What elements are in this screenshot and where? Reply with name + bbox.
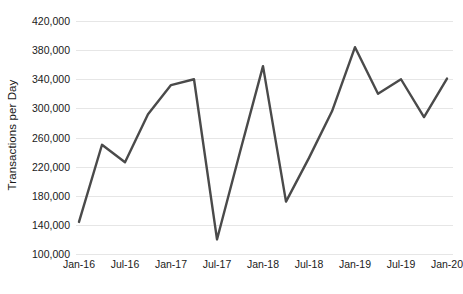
y-axis-tick-label: 300,000 <box>32 102 70 114</box>
y-axis-tick-label: 220,000 <box>32 161 70 173</box>
x-axis-tick-label: Jan-19 <box>339 258 371 270</box>
x-axis-tick-label: Jan-20 <box>431 258 463 270</box>
x-axis-tick-labels: Jan-16Jul-16Jan-17Jul-17Jan-18Jul-18Jan-… <box>0 258 457 278</box>
y-axis-tick-label: 420,000 <box>32 15 70 27</box>
y-axis-tick-label: 180,000 <box>32 190 70 202</box>
x-axis-tick-label: Jul-16 <box>111 258 140 270</box>
y-axis-title-label: Transactions per Day <box>6 80 18 191</box>
plot-area <box>76 21 453 254</box>
x-axis-tick-label: Jan-17 <box>155 258 187 270</box>
x-axis-tick-label: Jan-16 <box>63 258 95 270</box>
series-line-transactions-per-day <box>76 21 453 254</box>
x-axis-tick-label: Jul-17 <box>203 258 232 270</box>
y-axis-tick-labels: 420,000380,000340,000300,000260,000220,0… <box>24 0 74 294</box>
y-axis-tick-label: 340,000 <box>32 73 70 85</box>
x-axis-tick-label: Jul-19 <box>387 258 416 270</box>
y-axis-title: Transactions per Day <box>0 0 24 270</box>
y-axis-tick-label: 260,000 <box>32 132 70 144</box>
x-axis-tick-label: Jul-18 <box>295 258 324 270</box>
series-polyline <box>79 47 447 239</box>
y-axis-tick-label: 140,000 <box>32 219 70 231</box>
x-axis-tick-label: Jan-18 <box>247 258 279 270</box>
y-axis-tick-label: 380,000 <box>32 44 70 56</box>
gridline <box>76 254 453 255</box>
